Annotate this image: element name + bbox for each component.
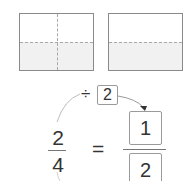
divisor-input-box[interactable]: 2 [97,85,118,105]
given-fraction-bar [48,150,66,151]
arc-left-segment [57,94,80,122]
answer-denominator-box[interactable]: 2 [129,153,162,181]
shaded-region [109,42,182,70]
given-numerator: 2 [50,127,66,149]
divisor-value: 2 [103,86,112,104]
division-sign: ÷ [81,84,90,104]
answer-denominator-value: 2 [140,159,151,182]
given-denominator: 4 [50,154,66,176]
answer-numerator-value: 1 [140,117,151,140]
answer-numerator-box[interactable]: 1 [129,111,162,145]
answer-fraction-bar [123,149,166,150]
equals-sign: = [92,138,104,160]
fraction-model-quarters [19,13,94,71]
vertical-dashed-divider [57,14,58,70]
arc-right-segment [118,96,143,107]
fraction-model-halves [108,13,183,71]
horizontal-dashed-divider [109,42,182,43]
